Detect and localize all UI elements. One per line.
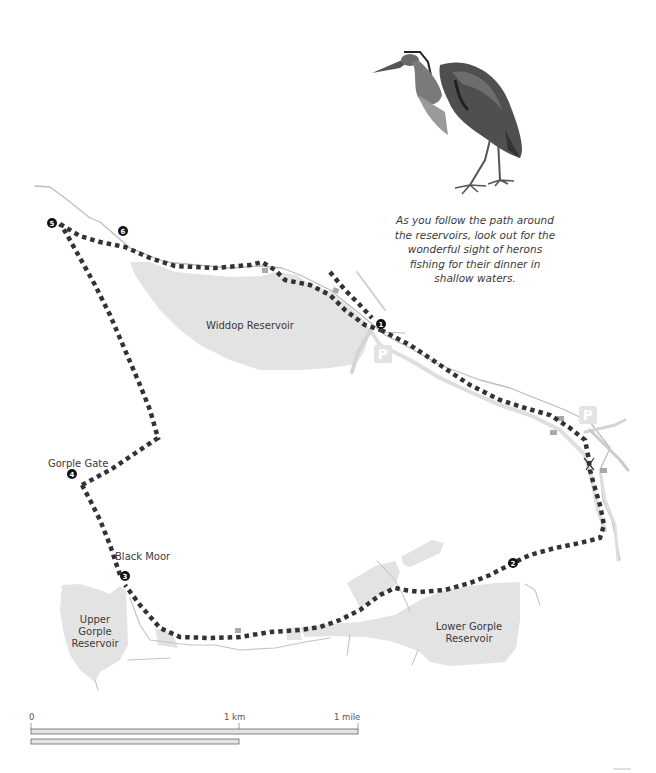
- waypoint-3[interactable]: 3: [120, 571, 130, 581]
- scale-km-label: 1 km: [224, 712, 245, 722]
- label-widdop-reservoir: Widdop Reservoir: [206, 320, 295, 331]
- walk-route-map: P P 1: [0, 0, 656, 773]
- waypoint-1[interactable]: 1: [376, 319, 386, 329]
- building: [262, 268, 268, 273]
- heron-icon: [372, 52, 522, 194]
- building: [235, 628, 241, 633]
- road-east-branch: [600, 470, 618, 560]
- pond-east-of-upper: [155, 628, 178, 648]
- svg-text:2: 2: [511, 560, 516, 568]
- waypoint-2[interactable]: 2: [508, 558, 518, 568]
- building: [550, 430, 557, 435]
- waypoint-4[interactable]: 4: [67, 469, 77, 479]
- stream-lower-2: [412, 650, 418, 665]
- svg-text:P: P: [583, 407, 593, 423]
- caption-line-3: wonderful sight of herons: [365, 242, 585, 257]
- label-gorple-gate: Gorple Gate: [48, 458, 108, 469]
- caption-line-2: the reservoirs, look out for the: [365, 228, 585, 243]
- corner-mark: [613, 768, 631, 770]
- scale-bar-km: [31, 739, 239, 744]
- heron-caption: As you follow the path around the reserv…: [365, 213, 585, 286]
- svg-text:1: 1: [379, 321, 384, 329]
- label-lower-gorple-line2: Reservoir: [445, 633, 493, 644]
- svg-text:6: 6: [121, 228, 126, 236]
- stream-upper-south: [95, 680, 98, 690]
- label-upper-gorple-line3: Reservoir: [71, 638, 119, 649]
- field-patch-west: [347, 561, 400, 608]
- svg-text:3: 3: [123, 573, 128, 581]
- scale-mile-label: 1 mile: [334, 712, 360, 722]
- caption-line-1: As you follow the path around: [365, 213, 585, 228]
- widdop-reservoir: [130, 262, 370, 370]
- building: [600, 468, 607, 473]
- caption-line-5: shallow waters.: [365, 271, 585, 286]
- scale-bar-mile: [31, 729, 358, 734]
- parking-widdop: P: [374, 345, 392, 363]
- walking-route: [60, 224, 604, 638]
- south-lane-west: [128, 658, 170, 660]
- svg-text:5: 5: [50, 220, 55, 228]
- label-black-moor: Black Moor: [115, 551, 171, 562]
- label-upper-gorple-line1: Upper: [80, 614, 111, 625]
- scale-zero-label: 0: [29, 712, 34, 722]
- svg-text:P: P: [378, 346, 388, 362]
- stream-east: [525, 584, 540, 605]
- stream-lower-1: [347, 635, 350, 655]
- waypoint-5[interactable]: 5: [47, 218, 57, 228]
- scale-bar: 0 1 km 1 mile: [29, 712, 360, 744]
- label-lower-gorple-line1: Lower Gorple: [436, 621, 502, 632]
- road-east-diagonal: [590, 430, 628, 470]
- parking-east: P: [579, 406, 597, 424]
- waypoint-6[interactable]: 6: [118, 226, 128, 236]
- field-patch-east: [401, 540, 444, 567]
- label-upper-gorple-line2: Gorple: [78, 626, 111, 637]
- caption-line-4: fishing for their dinner in: [365, 257, 585, 272]
- svg-text:4: 4: [70, 471, 75, 479]
